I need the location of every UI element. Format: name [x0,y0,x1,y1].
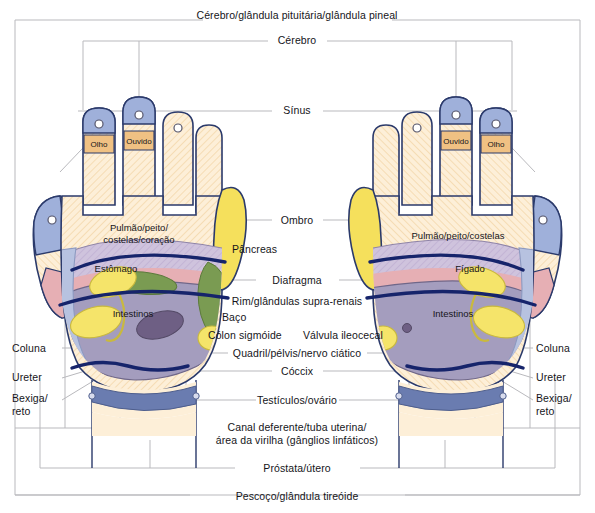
center-label-pancreas: Pâncreas [232,243,277,256]
zone-label-pulmao-peito-costelas: Pulmão/peito/costelas [399,230,517,242]
zone-label-estomago: Estômago [95,263,138,274]
zone-label-olho-esquerdo: Olho [91,140,108,149]
center-label-quadril-pelvis-nervo-ciatico: Quadril/pélvis/nervo ciático [233,347,361,360]
center-label-testiculos-ovario: Testículos/ovário [257,394,337,407]
reflexology-hand-chart: Cérebro/glândula pituitária/glândula pin… [0,0,595,513]
side-label-bexiga-reto-direito-line1: Bexiga/ [536,392,572,405]
zone-label-intestinos-esquerdo: Intestinos [113,308,154,319]
center-label-cerebro-pituitaria-pineal: Cérebro/glândula pituitária/glândula pin… [196,9,397,22]
center-label-area-virilha-ganglios: área da virilha (gânglios linfáticos) [216,434,378,447]
zone-label-figado: Fígado [455,263,485,274]
side-label-bexiga-reto-esquerdo-line2: reto [12,405,31,418]
side-label-ureter-esquerdo: Ureter [12,371,42,384]
center-label-rim-glandulas-supra-renais: Rim/glândulas supra-renais [232,295,362,308]
side-label-bexiga-reto-direito-line2: reto [536,405,555,418]
zone-label-intestinos-direito: Intestinos [433,308,474,319]
side-label-ureter-direito: Ureter [536,371,566,384]
side-label-coluna-esquerda: Coluna [12,342,46,355]
zone-label-ouvido-direito: Ouvido [443,137,468,146]
center-label-coccix: Cóccix [281,365,313,378]
center-label-ombro: Ombro [281,214,314,227]
center-label-prostata-utero: Próstata/útero [263,462,330,475]
center-label-baco: Baço [222,311,246,324]
side-label-coluna-direita: Coluna [536,342,570,355]
center-label-diafragma: Diafragma [272,274,321,287]
side-label-bexiga-reto-esquerdo-line1: Bexiga/ [12,392,48,405]
center-label-colon-sigmoide: Cólon sigmóide [208,329,282,342]
center-label-sinus: Sínus [283,104,310,117]
center-label-pescoco-glandula-tireoide: Pescoço/glândula tireóide [236,490,359,503]
center-label-cerebro: Cérebro [278,34,317,47]
zone-label-olho-direito: Olho [488,140,505,149]
center-label-canal-deferente-tuba-uterina: Canal deferente/tuba uterina/ [228,421,367,434]
zone-label-ouvido-esquerdo: Ouvido [126,137,151,146]
center-label-valvula-ileocecal: Válvula ileocecal [303,329,383,342]
zone-label-pulmao-peito-costelas-coracao: Pulmão/peito/ costelas/coração [91,222,187,245]
